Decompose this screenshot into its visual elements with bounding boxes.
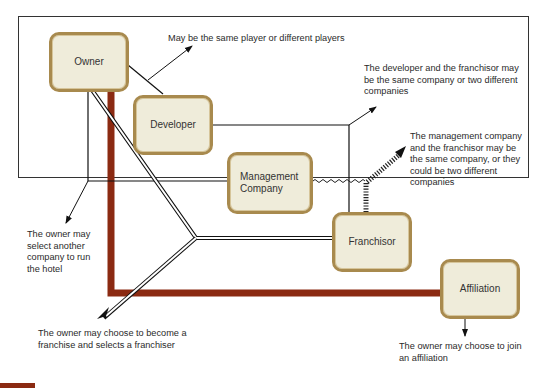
affiliation-label: Affiliation: [460, 283, 500, 295]
note-franchise: The owner may choose to become a franchi…: [38, 328, 198, 351]
owner-label: Owner: [74, 56, 103, 68]
franchisor-node: Franchisor: [332, 212, 412, 272]
management-company-node: Management Company: [227, 152, 313, 214]
note-select-company: The owner may select another company to …: [27, 229, 103, 275]
developer-label: Developer: [150, 119, 196, 131]
note-affiliation: The owner may choose to join an affiliat…: [399, 341, 529, 364]
note-developer-franchisor: The developer and the franchisor may be …: [364, 63, 524, 98]
management-label: Management Company: [240, 171, 300, 195]
franchisor-label: Franchisor: [348, 236, 395, 248]
affiliation-node: Affiliation: [440, 259, 520, 319]
note-same-player: May be the same player or different play…: [168, 33, 428, 45]
owner-node: Owner: [49, 32, 129, 92]
figure-tab: [0, 383, 35, 388]
developer-node: Developer: [133, 95, 213, 155]
select-company-arrow: [66, 181, 88, 223]
note-management-franchisor: The management company and the franchiso…: [410, 131, 528, 189]
management-franchisor-wavy: [313, 180, 365, 183]
